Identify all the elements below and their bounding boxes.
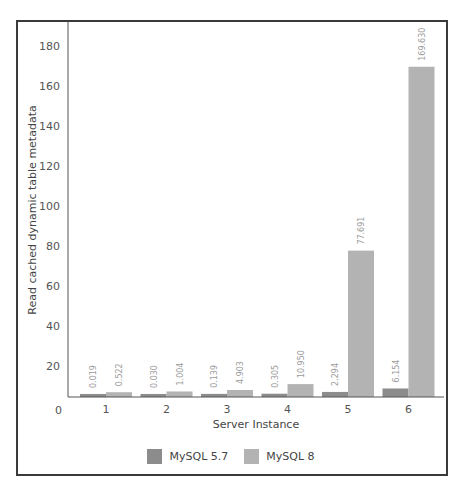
bar-mysql57-5 [322,392,348,397]
bar-mysql57-6 [383,388,409,397]
y-tick-label: 160 [39,80,60,93]
legend-label-mysql57: MySQL 5.7 [169,450,228,463]
x-tick-label: 5 [345,403,352,416]
bar-value-label: 2.294 [331,363,340,386]
bar-mysql8-3 [227,390,253,397]
y-tick-label: 40 [46,320,60,333]
bar-value-label: 0.305 [271,365,280,388]
legend: MySQL 5.7 MySQL 8 [0,449,462,464]
y-axis-title: Read cached dynamic table metadata [26,105,39,314]
bars: 0.0190.5220.0301.0040.1394.9030.30510.95… [80,28,435,397]
legend-label-mysql8: MySQL 8 [266,450,314,463]
bar-value-label: 169.630 [418,28,427,61]
y-tick-label: 140 [39,120,60,133]
x-tick-label: 1 [103,403,110,416]
y-tick-label: 0 [55,404,62,417]
bar-value-label: 0.139 [210,365,219,388]
x-tick-label: 2 [163,403,170,416]
legend-swatch-mysql57 [147,449,162,464]
bar-value-label: 77.691 [357,217,366,245]
bar-value-label: 4.903 [236,361,245,384]
x-tick-label: 6 [405,403,412,416]
bar-chart: 020406080100120140160180 0.0190.5220.030… [0,0,462,440]
bar-value-label: 10.950 [297,350,306,378]
y-axis-ticks: 020406080100120140160180 [39,40,62,417]
bar-value-label: 1.004 [176,363,185,386]
bar-mysql8-4 [288,384,314,397]
x-tick-label: 4 [284,403,291,416]
bar-value-label: 0.522 [115,363,124,386]
y-tick-label: 60 [46,280,60,293]
legend-item-mysql8[interactable]: MySQL 8 [244,449,314,464]
legend-swatch-mysql8 [244,449,259,464]
x-axis-ticks: 123456 [103,403,413,416]
x-tick-label: 3 [224,403,231,416]
y-tick-label: 100 [39,200,60,213]
y-tick-label: 20 [46,360,60,373]
x-axis-title: Server Instance [213,418,300,431]
y-tick-label: 180 [39,40,60,53]
y-tick-label: 80 [46,240,60,253]
bar-mysql8-1 [106,392,132,397]
bar-value-label: 0.030 [150,365,159,388]
y-tick-label: 120 [39,160,60,173]
bar-mysql8-2 [167,391,193,397]
bar-value-label: 6.154 [392,360,401,383]
legend-item-mysql57[interactable]: MySQL 5.7 [147,449,228,464]
bar-mysql8-6 [409,67,435,397]
bar-mysql8-5 [348,251,374,397]
bar-value-label: 0.019 [89,365,98,388]
